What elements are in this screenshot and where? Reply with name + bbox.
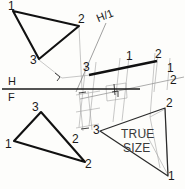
transfer-line-mid — [76, 108, 100, 112]
transfer-tick-bot — [81, 128, 89, 129]
edge-view-line — [89, 61, 157, 75]
drawing-canvas — [0, 0, 185, 189]
front-view-vertex-3-label: 3 — [32, 101, 39, 113]
front-view-vertex-1-label: 1 — [5, 138, 12, 150]
aux-projector-c — [113, 58, 120, 122]
plane-label-h: H — [8, 76, 16, 87]
front-view-vertex-2-label: 2 — [85, 158, 92, 170]
plane-label-f: F — [8, 92, 15, 103]
construction-lines — [39, 23, 184, 175]
ts-internal-2 — [150, 117, 160, 168]
top-view-vertex-2-label: 2 — [78, 13, 85, 25]
technical-drawing-sheet: 1 2 3 H/1 H F 3 1 2 1 2 3 1 2 3 2 1 2 TR… — [0, 0, 185, 189]
transfer-tick-top — [79, 92, 86, 93]
aux-projector-b — [89, 62, 96, 126]
true-size-caption-line1: TRUE — [121, 128, 154, 140]
dist-box-right — [126, 83, 127, 98]
top-view-vertex-3-label: 3 — [30, 54, 37, 66]
true-size-projected-2-label: 2 — [72, 133, 79, 145]
top-view-vertex-1-label: 1 — [8, 0, 15, 12]
edge-view-vertex-2-label: 2 — [155, 48, 162, 60]
true-size-vertex-1-label: 1 — [168, 170, 175, 182]
true-size-caption-line2: SIZE — [123, 142, 150, 154]
dist-box-top — [106, 83, 126, 86]
edge-view-vertex-3-label: 3 — [83, 61, 90, 73]
projector-3-tail — [62, 75, 91, 78]
top-view-triangle — [13, 11, 79, 59]
fold-1-2-label-bottom: 2 — [170, 74, 177, 86]
projector-2-to-h1 — [79, 27, 82, 90]
edge-view-vertex-1-label: 1 — [126, 50, 133, 62]
true-size-vertex-3-label: 3 — [93, 124, 100, 136]
true-size-vertex-2-label: 2 — [166, 97, 173, 109]
